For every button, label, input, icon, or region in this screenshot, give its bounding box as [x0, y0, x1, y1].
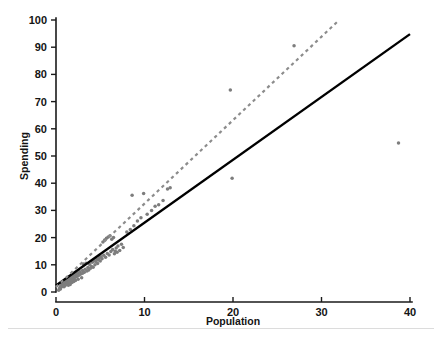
- y-axis-tick-label: 60: [35, 123, 47, 135]
- y-axis-tick-label: 100: [29, 14, 47, 26]
- data-point: [139, 216, 143, 220]
- data-point: [112, 236, 116, 240]
- y-axis-tick-label: 0: [41, 286, 47, 298]
- data-point: [107, 253, 111, 257]
- data-point: [142, 192, 146, 196]
- scatter-points-group: [57, 44, 400, 292]
- data-point: [157, 203, 161, 207]
- data-point: [122, 246, 126, 250]
- data-point: [76, 277, 80, 281]
- x-axis-tick-label: 0: [53, 306, 59, 318]
- y-axis-tick-label: 70: [35, 96, 47, 108]
- chart-canvas: 0102030405060708090100010203040Populatio…: [0, 0, 442, 338]
- x-axis-tick-label: 40: [404, 306, 416, 318]
- data-point: [136, 219, 140, 223]
- data-point: [397, 141, 401, 145]
- data-point: [100, 257, 104, 261]
- x-axis-tick-label: 10: [138, 306, 150, 318]
- data-point: [104, 255, 108, 259]
- x-axis-tick-label: 30: [315, 306, 327, 318]
- data-point: [292, 44, 296, 48]
- data-point: [153, 205, 157, 209]
- y-axis-tick-label: 30: [35, 204, 47, 216]
- dashed-trend-line: [56, 20, 339, 287]
- y-axis-tick-label: 90: [35, 41, 47, 53]
- data-point: [168, 186, 172, 190]
- y-axis-tick-label: 10: [35, 259, 47, 271]
- x-axis-title: Population: [206, 315, 260, 327]
- data-point: [229, 88, 233, 92]
- data-point: [120, 242, 124, 246]
- data-point: [230, 177, 234, 181]
- data-point: [132, 224, 136, 228]
- y-axis-title: Spending: [18, 132, 30, 180]
- y-axis-tick-label: 80: [35, 68, 47, 80]
- y-axis-tick-label: 50: [35, 150, 47, 162]
- data-point: [161, 199, 165, 203]
- data-point: [80, 276, 84, 280]
- data-point: [145, 212, 149, 216]
- y-axis-tick-label: 40: [35, 177, 47, 189]
- data-point: [118, 249, 122, 253]
- data-point: [96, 262, 100, 266]
- scatter-plot-figure: 0102030405060708090100010203040Populatio…: [0, 0, 442, 338]
- data-point: [116, 244, 120, 248]
- solid-trend-line: [56, 34, 410, 285]
- data-point: [130, 193, 134, 197]
- data-point: [150, 209, 154, 213]
- footer-divider: [8, 328, 434, 329]
- y-axis-tick-label: 20: [35, 232, 47, 244]
